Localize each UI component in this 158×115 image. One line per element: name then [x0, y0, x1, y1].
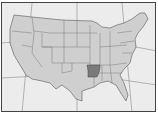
map-frame — [1, 2, 156, 112]
us-landmass — [10, 13, 148, 101]
state-arkansas-highlighted — [87, 65, 100, 77]
us-map — [2, 3, 156, 112]
